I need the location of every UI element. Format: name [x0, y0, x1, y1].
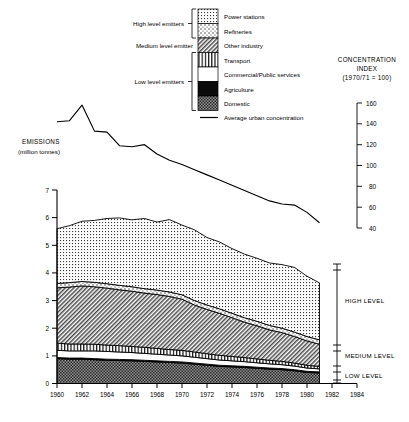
emissions-tick-7: 7 [45, 187, 49, 194]
legend-swatch-stack [198, 9, 218, 111]
emissions-tick-2: 2 [45, 325, 49, 332]
emissions-chart-figure: Power stations Refineries Other industry… [0, 0, 409, 422]
emissions-tick-0: 0 [45, 380, 49, 387]
legend-swatch-transport [198, 53, 218, 68]
emissions-axis-unit: (million tonnes) [18, 148, 60, 155]
year-label-1964: 1964 [100, 391, 115, 398]
legend-label-agriculture: Agriculture [224, 86, 254, 93]
level-marker-label-medium: MEDIUM LEVEL [345, 352, 395, 359]
year-label-1962: 1962 [75, 391, 90, 398]
year-label-1982: 1982 [325, 391, 340, 398]
concentration-tick-120: 120 [366, 141, 377, 148]
level-marker-label-high: HIGH LEVEL [345, 297, 385, 304]
concentration-tick-140: 140 [366, 120, 377, 127]
legend-label-other-industry: Other industry [224, 42, 264, 49]
concentration-tick-100: 100 [366, 162, 377, 169]
legend-swatch-power-stations [198, 9, 218, 24]
emissions-tick-1: 1 [45, 352, 49, 359]
legend-label-domestic: Domestic [224, 100, 250, 107]
year-label-1970: 1970 [175, 391, 190, 398]
legend-label-average-urban-concentration: Average urban concentration [224, 114, 304, 121]
concentration-axis-title: CONCENTRATION [338, 56, 397, 63]
legend-swatch-refineries [198, 24, 218, 39]
level-marker-label-low: LOW LEVEL [345, 372, 383, 379]
concentration-tick-60: 60 [369, 204, 377, 211]
emissions-tick-3: 3 [45, 297, 49, 304]
legend-swatch-commercial-public-services [198, 67, 218, 82]
concentration-tick-40: 40 [369, 225, 377, 232]
year-label-1980: 1980 [300, 391, 315, 398]
legend-swatch-domestic [198, 96, 218, 111]
year-label-1978: 1978 [275, 391, 290, 398]
legend-swatch-agriculture [198, 82, 218, 97]
chart-root: Power stations Refineries Other industry… [0, 0, 409, 422]
year-label-1972: 1972 [200, 391, 215, 398]
concentration-tick-80: 80 [369, 183, 377, 190]
concentration-tick-160: 160 [366, 100, 377, 107]
year-label-1984: 1984 [350, 391, 365, 398]
emissions-axis-title: EMISSIONS [22, 138, 60, 145]
concentration-axis-title-2: INDEX [357, 65, 378, 72]
year-label-1960: 1960 [50, 391, 65, 398]
legend-label-refineries: Refineries [224, 28, 252, 35]
emissions-tick-5: 5 [45, 242, 49, 249]
year-label-1966: 1966 [125, 391, 140, 398]
legend-label-transport: Transport [224, 57, 251, 64]
year-label-1968: 1968 [150, 391, 165, 398]
concentration-axis-title-3: (1970/71 = 100) [342, 74, 391, 82]
legend-swatch-other-industry [198, 38, 218, 53]
legend-label-commercial-public-services: Commercial/Public services [224, 71, 300, 78]
year-label-1976: 1976 [250, 391, 265, 398]
legend-group-high-level-emitters: High level emitters [133, 20, 184, 27]
emissions-tick-4: 4 [45, 269, 49, 276]
year-label-1974: 1974 [225, 391, 240, 398]
legend-group-medium-level-emitter: Medium level emitter [136, 42, 193, 49]
legend-group-low-level-emitters: Low level emitters [134, 78, 184, 85]
legend-label-power-stations: Power stations [224, 13, 265, 20]
emissions-tick-6: 6 [45, 214, 49, 221]
